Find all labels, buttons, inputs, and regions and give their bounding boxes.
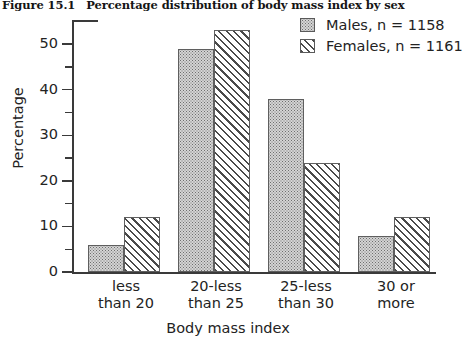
y-tick-label-50: 50 [18,35,58,51]
y-tick-40 [62,89,72,91]
y-tick-10 [62,226,72,228]
bar-females-group-4 [394,217,430,272]
x-axis-label: Body mass index [0,320,456,336]
y-tick-0 [62,271,72,273]
figure-title-text: Percentage distribution of body mass ind… [86,0,404,12]
y-minor-tick-15 [65,203,72,205]
bar-females-group-3 [304,163,340,272]
y-minor-tick-45 [65,66,72,68]
y-tick-50 [62,43,72,45]
category-label-line: 30 or [336,278,456,295]
bar-males-group-1 [88,245,124,272]
bar-males-group-3 [268,99,304,272]
x-axis-line [72,272,436,274]
y-minor-tick-5 [65,249,72,251]
plot-area [72,38,436,272]
bar-males-group-2 [178,49,214,272]
figure-number: Figure 15.1 [2,0,75,12]
category-label-line: more [336,295,456,312]
figure-title: Figure 15.1Percentage distribution of bo… [2,0,405,12]
y-minor-tick-35 [65,112,72,114]
y-tick-label-0: 0 [18,263,58,279]
axis-top-corner-tick [72,20,98,22]
y-axis-label: Percentage [10,58,26,198]
legend-label-males: Males, n = 1158 [326,17,445,33]
y-tick-20 [62,180,72,182]
bar-females-group-2 [214,30,250,272]
males-swatch-icon [300,18,315,32]
bar-females-group-1 [124,217,160,272]
y-tick-label-10: 10 [18,217,58,233]
category-label-4: 30 ormore [336,278,456,312]
bar-males-group-4 [358,236,394,272]
y-tick-30 [62,135,72,137]
y-minor-tick-25 [65,157,72,159]
legend-item-males: Males, n = 1158 [300,14,463,35]
